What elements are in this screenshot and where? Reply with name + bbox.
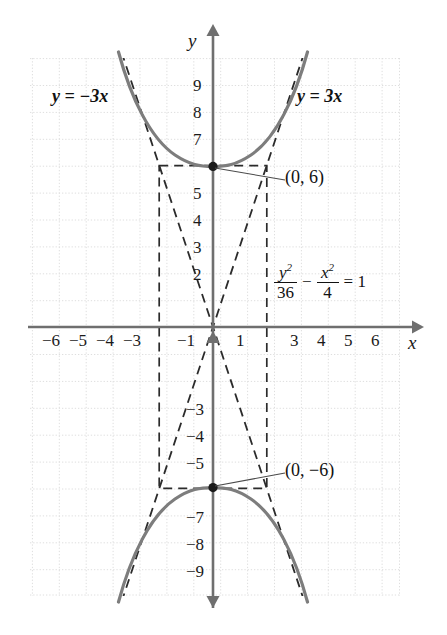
equation-numerator-x: x2 (318, 262, 337, 282)
asymptote-right-label: y = 3x (297, 87, 342, 105)
x-tick-label-1: 1 (236, 332, 245, 349)
equation-fraction-y: y2 36 (274, 262, 297, 301)
x-tick-label--5: −5 (69, 332, 87, 349)
equation-denominator-36: 36 (274, 283, 297, 301)
vertex-top-label: (0, 6) (285, 168, 324, 186)
vertex-point-top (208, 162, 217, 171)
y-tick-label-5: 5 (193, 185, 202, 202)
y-tick-label-3: 3 (193, 239, 202, 256)
x-tick-label-4: 4 (317, 332, 326, 349)
x-tick-label-5: 5 (344, 332, 353, 349)
y-tick-label-2: 2 (193, 266, 202, 283)
y-tick-label-9: 9 (193, 77, 202, 94)
y-tick-label--9: −9 (186, 563, 204, 580)
equation-denominator-4: 4 (320, 283, 335, 301)
vertex-bottom-label: (0, −6) (285, 461, 334, 479)
y-axis-arrowhead-origin-up (207, 331, 220, 343)
axis-lines (28, 24, 424, 608)
asymptote-left-label: y = −3x (52, 87, 108, 105)
hyperbola-equation: y2 36 − x2 4 = 1 (274, 262, 366, 301)
y-axis-arrowhead-top (207, 24, 220, 36)
y-tick-label-7: 7 (193, 131, 202, 148)
y-tick-label-4: 4 (193, 212, 202, 229)
y-tick-label--8: −8 (186, 536, 204, 553)
y-tick-label--4: −4 (186, 428, 204, 445)
y-tick-label-8: 8 (193, 104, 202, 121)
equation-minus-operator: − (302, 273, 312, 290)
equation-fraction-x: x2 4 (317, 262, 339, 301)
x-axis-name: x (408, 333, 416, 352)
x-tick-label-3: 3 (290, 332, 299, 349)
y-tick-label--3: −3 (186, 401, 204, 418)
x-tick-label--1: −1 (177, 332, 195, 349)
x-tick-label--4: −4 (96, 332, 114, 349)
y-axis-name: y (188, 31, 196, 50)
equation-equals-one: = 1 (344, 273, 366, 290)
y-axis-arrowhead-bottom (207, 596, 220, 608)
x-tick-label-6: 6 (371, 332, 380, 349)
x-tick-label--3: −3 (123, 332, 141, 349)
hyperbola-figure: −6 −5 −4 −3 −1 1 3 4 5 6 9 8 7 5 4 3 2 −… (0, 0, 447, 635)
equation-numerator-y: y2 (276, 262, 295, 282)
x-tick-label--6: −6 (42, 332, 60, 349)
y-tick-label--7: −7 (186, 509, 204, 526)
vertex-point-bottom (208, 483, 217, 492)
y-tick-label--5: −5 (186, 455, 204, 472)
